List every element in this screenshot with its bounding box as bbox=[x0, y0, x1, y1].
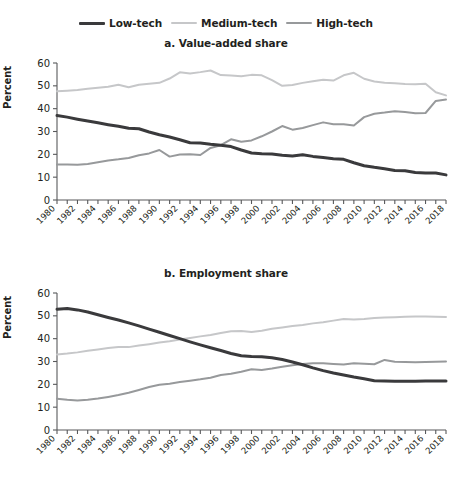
panel-a-y-tick-label: 30 bbox=[37, 126, 50, 137]
panel-a-title: a. Value-added share bbox=[0, 38, 452, 50]
panel-a-x-tick-label: 1980 bbox=[34, 203, 57, 226]
panel-b-svg: 0102030405060198019821984198619881990199… bbox=[0, 285, 452, 470]
panel-a-x-tick-label: 1984 bbox=[75, 203, 98, 226]
panel-a-x-tick-label: 1998 bbox=[219, 203, 242, 226]
panel-a-x-tick-label: 2008 bbox=[321, 203, 344, 226]
panel-b-y-tick-label: 30 bbox=[37, 356, 50, 367]
panel-b-x-tick-label: 2002 bbox=[260, 433, 283, 456]
panel-b-plot: Percent 01020304050601980198219841986198… bbox=[0, 285, 452, 470]
panel-a-x-tick-label: 2002 bbox=[260, 203, 283, 226]
panel-b-x-tick-label: 1984 bbox=[75, 433, 98, 456]
panel-b-x-tick-label: 2018 bbox=[423, 433, 446, 456]
panel-a-y-tick-label: 10 bbox=[37, 171, 50, 182]
panel-a-x-tick-label: 2010 bbox=[341, 203, 364, 226]
legend-label-medium-tech: Medium-tech bbox=[201, 18, 277, 29]
panel-b-x-tick-label: 1998 bbox=[219, 433, 242, 456]
panel-a-x-tick-label: 2018 bbox=[423, 203, 446, 226]
panel-b-x-tick-label: 1992 bbox=[157, 433, 180, 456]
panel-b-x-tick-label: 2008 bbox=[321, 433, 344, 456]
panel-a-series-high-tech bbox=[57, 99, 446, 164]
panel-a-y-tick-label: 40 bbox=[37, 103, 50, 114]
panel-b-x-tick-label: 2006 bbox=[301, 433, 324, 456]
panel-a-ylabel: Percent bbox=[2, 66, 13, 109]
panel-a-x-tick-label: 1988 bbox=[116, 203, 139, 226]
panel-b-x-tick-label: 1994 bbox=[178, 433, 201, 456]
panel-b-series-medium-tech bbox=[57, 316, 446, 354]
panel-b-x-tick-label: 1996 bbox=[198, 433, 221, 456]
panel-a-x-tick-label: 2012 bbox=[362, 203, 385, 226]
panel-b-y-tick-label: 10 bbox=[37, 401, 50, 412]
panel-a-plot: Percent 01020304050601980198219841986198… bbox=[0, 55, 452, 240]
panel-b-x-tick-label: 2000 bbox=[239, 433, 262, 456]
panel-a-y-tick-label: 20 bbox=[37, 148, 50, 159]
panel-b-title: b. Employment share bbox=[0, 268, 452, 280]
panel-b-x-tick-label: 1988 bbox=[116, 433, 139, 456]
panel-b-y-tick-label: 20 bbox=[37, 378, 50, 389]
panel-a-x-tick-label: 1996 bbox=[198, 203, 221, 226]
panel-a-svg: 0102030405060198019821984198619881990199… bbox=[0, 55, 452, 240]
legend-label-high-tech: High-tech bbox=[316, 18, 373, 29]
chart-figure: Low-tech Medium-tech High-tech a. Value-… bbox=[0, 0, 452, 503]
legend-swatch-medium-tech bbox=[171, 22, 197, 24]
panel-b-x-tick-label: 1986 bbox=[96, 433, 119, 456]
panel-a-x-tick-label: 1992 bbox=[157, 203, 180, 226]
panel-a-x-tick-label: 2014 bbox=[382, 203, 405, 226]
panel-a-x-tick-label: 2000 bbox=[239, 203, 262, 226]
legend-item-low-tech: Low-tech bbox=[79, 18, 162, 29]
panel-b-x-tick-label: 2014 bbox=[382, 433, 405, 456]
panel-a-x-tick-label: 1986 bbox=[96, 203, 119, 226]
panel-b-y-tick-label: 60 bbox=[37, 287, 50, 298]
panel-a-x-tick-label: 1994 bbox=[178, 203, 201, 226]
panel-b-x-tick-label: 1982 bbox=[55, 433, 78, 456]
legend-item-medium-tech: Medium-tech bbox=[171, 18, 277, 29]
panel-a-y-tick-label: 60 bbox=[37, 57, 50, 68]
panel-b-x-tick-label: 2010 bbox=[341, 433, 364, 456]
panel-b-ylabel: Percent bbox=[2, 296, 13, 339]
panel-a-x-tick-label: 2004 bbox=[280, 203, 303, 226]
legend-item-high-tech: High-tech bbox=[286, 18, 373, 29]
panel-value-added-share: a. Value-added share Percent 01020304050… bbox=[0, 38, 452, 240]
panel-b-x-tick-label: 2012 bbox=[362, 433, 385, 456]
legend-swatch-low-tech bbox=[79, 22, 105, 25]
panel-a-series-medium-tech bbox=[57, 70, 446, 95]
panel-b-y-tick-label: 40 bbox=[37, 333, 50, 344]
panel-a-x-tick-label: 1982 bbox=[55, 203, 78, 226]
panel-employment-share: b. Employment share Percent 010203040506… bbox=[0, 268, 452, 470]
panel-a-series-low-tech bbox=[57, 115, 446, 174]
panel-b-x-tick-label: 2004 bbox=[280, 433, 303, 456]
panel-b-x-tick-label: 1990 bbox=[137, 433, 160, 456]
legend: Low-tech Medium-tech High-tech bbox=[0, 18, 452, 29]
panel-a-x-tick-label: 1990 bbox=[137, 203, 160, 226]
panel-a-x-tick-label: 2016 bbox=[403, 203, 426, 226]
panel-a-y-tick-label: 50 bbox=[37, 80, 50, 91]
legend-label-low-tech: Low-tech bbox=[109, 18, 162, 29]
panel-a-x-tick-label: 2006 bbox=[301, 203, 324, 226]
panel-b-y-tick-label: 50 bbox=[37, 310, 50, 321]
panel-b-x-tick-label: 2016 bbox=[403, 433, 426, 456]
legend-swatch-high-tech bbox=[286, 22, 312, 24]
panel-b-x-tick-label: 1980 bbox=[34, 433, 57, 456]
